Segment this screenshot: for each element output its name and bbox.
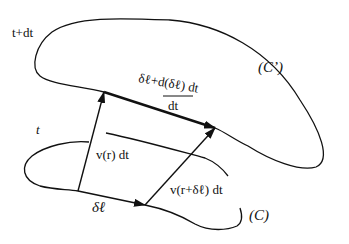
- label-curve-upper: (C’): [258, 59, 283, 76]
- label-velocity-r-plus-dl: v(r+δℓ) dt: [170, 182, 223, 197]
- curve-c-prime: [35, 19, 324, 168]
- label-curve-lower: (C): [249, 207, 269, 224]
- label-time-lower: t: [36, 122, 40, 137]
- curve-c-right: [145, 205, 242, 230]
- label-numerator: δℓ+d(δℓ) dt: [137, 70, 200, 95]
- label-denominator: dt: [168, 98, 179, 113]
- label-velocity-r: v(r) dt: [96, 147, 129, 162]
- label-time-upper: t+dt: [12, 25, 33, 40]
- transformed-element-arrow: [104, 92, 215, 128]
- delta-l-arrow: [78, 191, 145, 205]
- label-delta-l: δℓ: [92, 199, 105, 215]
- diagram-canvas: t+dt t (C’) (C) δℓ v(r) dt v(r+δℓ) dt δℓ…: [0, 0, 349, 244]
- diagram-svg: t+dt t (C’) (C) δℓ v(r) dt v(r+δℓ) dt δℓ…: [0, 0, 349, 244]
